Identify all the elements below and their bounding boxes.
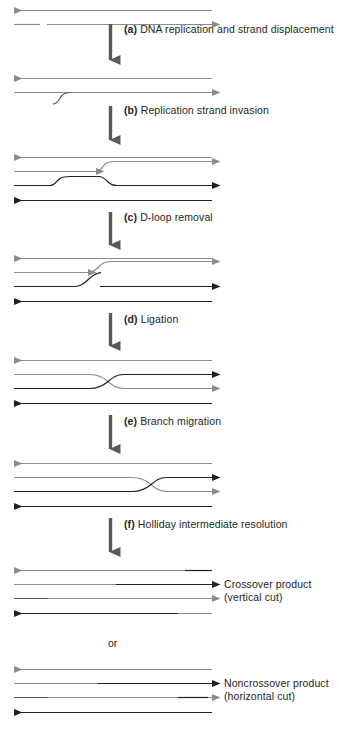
product-noncrossover-line1: Noncrossover product bbox=[224, 677, 329, 689]
stage-noncrossover-product bbox=[14, 670, 212, 713]
product-noncrossover-line2: (horizontal cut) bbox=[224, 690, 295, 702]
or-separator: or bbox=[108, 637, 117, 649]
step-letter-b: (b) bbox=[124, 104, 138, 116]
product-crossover-line1: Crossover product bbox=[224, 578, 311, 590]
step-label-e-text: Branch migration bbox=[140, 415, 221, 427]
step-label-d-text: Ligation bbox=[141, 313, 179, 325]
stage-after-d-loop-removal bbox=[14, 259, 212, 302]
step-letter-e: (e) bbox=[124, 415, 137, 427]
step-label-a: (a) DNA replication and strand displacem… bbox=[124, 23, 338, 36]
step-label-c-text: D-loop removal bbox=[140, 211, 213, 223]
step-label-d: (d) Ligation bbox=[124, 313, 338, 326]
stage-holliday bbox=[14, 361, 212, 404]
step-letter-c: (c) bbox=[124, 211, 137, 223]
stage-after-replication bbox=[14, 79, 212, 105]
step-label-b: (b) Replication strand invasion bbox=[124, 104, 338, 117]
stage-d-loop bbox=[14, 158, 212, 201]
step-letter-d: (d) bbox=[124, 313, 138, 325]
stage-branch-migrated bbox=[14, 464, 212, 507]
product-label-crossover: Crossover product(vertical cut) bbox=[224, 578, 334, 603]
step-letter-f: (f) bbox=[124, 518, 135, 530]
step-label-b-text: Replication strand invasion bbox=[141, 104, 269, 116]
product-label-noncrossover: Noncrossover product(horizontal cut) bbox=[224, 677, 334, 702]
step-label-f: (f) Holliday intermediate resolution bbox=[124, 518, 339, 531]
stage-crossover-product bbox=[14, 571, 212, 614]
step-label-e: (e) Branch migration bbox=[124, 415, 338, 428]
product-crossover-line2: (vertical cut) bbox=[224, 591, 283, 603]
step-label-a-text: DNA replication and strand displacement bbox=[140, 23, 334, 35]
step-label-c: (c) D-loop removal bbox=[124, 211, 338, 224]
step-label-f-text: Holliday intermediate resolution bbox=[138, 518, 288, 530]
step-letter-a: (a) bbox=[124, 23, 137, 35]
